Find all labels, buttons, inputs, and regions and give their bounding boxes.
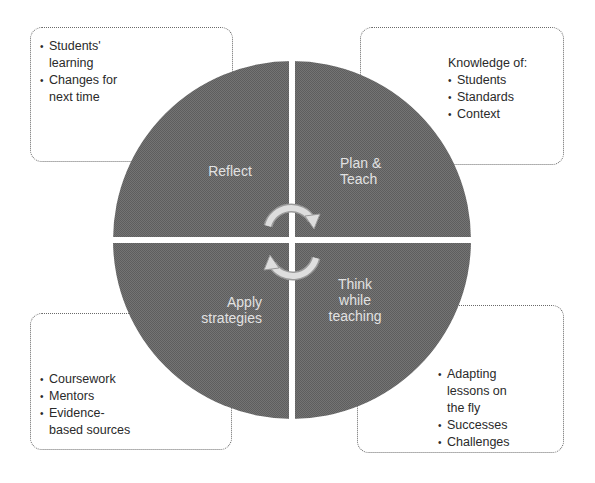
quadrant-label-reflect: Reflect: [190, 163, 270, 179]
label-text: Apply: [227, 294, 262, 310]
label-text: Think: [338, 276, 372, 292]
quadrant-plan-teach: [295, 50, 485, 237]
label-text: strategies: [201, 310, 262, 326]
cycle-diagram: [0, 0, 595, 483]
quadrant-label-think-while-teaching: Think while teaching: [310, 276, 400, 324]
label-text: teaching: [329, 308, 382, 324]
quadrant-label-apply-strategies: Apply strategies: [172, 294, 262, 326]
label-text: Reflect: [208, 163, 252, 179]
label-text: Teach: [340, 171, 377, 187]
quadrant-think-while-teaching: [295, 243, 485, 433]
quadrant-reflect: [100, 50, 289, 237]
label-text: while: [339, 292, 371, 308]
quadrant-apply-strategies: [100, 243, 289, 433]
label-text: Plan &: [340, 155, 381, 171]
quadrant-label-plan-teach: Plan & Teach: [330, 155, 420, 187]
